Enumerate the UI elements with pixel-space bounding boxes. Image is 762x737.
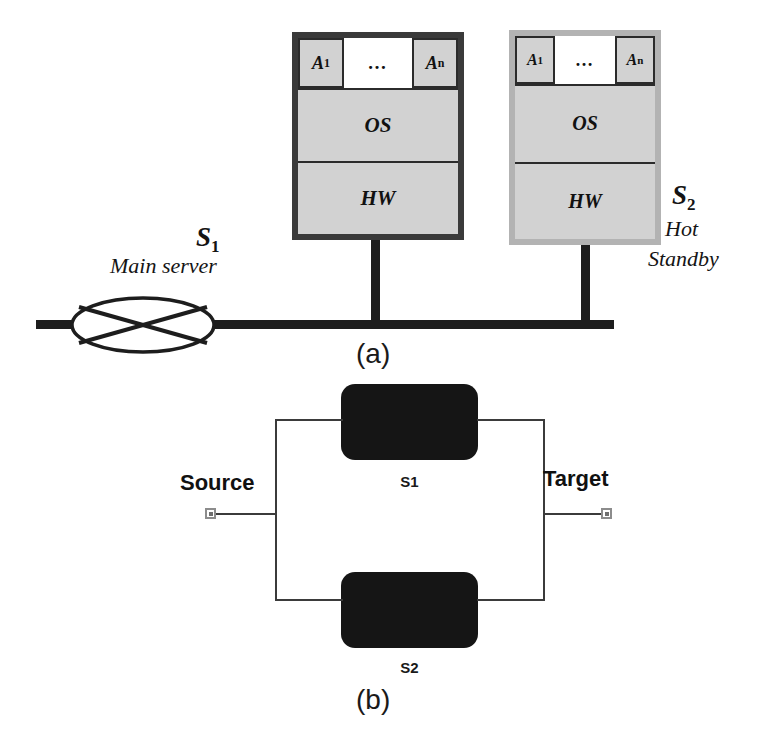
app-cell-an-s2-sub: n — [637, 54, 643, 66]
app-cell-an-s2-label: A — [627, 51, 638, 69]
part-b-caption: (b) — [356, 684, 390, 716]
app-row-s2: A1 … An — [515, 36, 655, 86]
wire-left-to-s2 — [275, 599, 343, 601]
source-label-text: Source — [180, 470, 255, 495]
app-cell-an-sub: n — [438, 56, 445, 71]
app-cell-ellipsis-label: … — [368, 52, 389, 74]
target-port-icon[interactable] — [601, 508, 612, 519]
server-s2-role-line1: Hot — [665, 216, 698, 242]
app-cell-ellipsis-s2-label: … — [575, 50, 595, 71]
crossed-ellipse-icon — [68, 294, 218, 356]
server-s1-os-label: OS — [365, 113, 392, 138]
wire-s1-to-right — [477, 419, 545, 421]
app-cell-a1-sub: 1 — [324, 56, 330, 71]
app-cell-a1: A1 — [298, 38, 344, 88]
target-label: Target — [543, 466, 609, 492]
server-s1-hw-label: HW — [360, 186, 395, 211]
block-s2-label: S2 — [341, 659, 478, 676]
server-s2-os-label: OS — [572, 112, 598, 135]
target-label-text: Target — [543, 466, 609, 491]
server-s1-id-text: S — [196, 222, 211, 252]
server-s1-role-text: Main server — [110, 253, 217, 278]
server-s1-role-label: Main server — [110, 253, 217, 279]
wire-left-to-s1 — [275, 419, 343, 421]
block-s1-label-text: S1 — [400, 473, 418, 490]
app-row-s1: A1 … An — [298, 38, 458, 90]
server-s2-id-sub: 2 — [687, 195, 696, 214]
server-s2-layer-os: OS — [515, 86, 655, 164]
server-s2-role-line2: Standby — [648, 246, 719, 272]
app-cell-a1-s2-sub: 1 — [538, 54, 544, 66]
block-s2 — [341, 572, 478, 648]
server-s1: A1 … An OS HW — [292, 32, 464, 240]
app-cell-ellipsis-s2: … — [555, 36, 615, 84]
block-s2-label-text: S2 — [400, 659, 418, 676]
drop-line-s2 — [581, 245, 590, 327]
server-s2-id-text: S — [672, 180, 687, 210]
server-s2-layer-hw: HW — [515, 164, 655, 240]
part-a-caption-text: (a) — [356, 338, 390, 369]
block-s1 — [341, 384, 478, 460]
app-cell-a1-s2: A1 — [515, 36, 555, 84]
part-a-caption: (a) — [356, 338, 390, 370]
source-label: Source — [180, 470, 255, 496]
app-cell-an-label: A — [426, 53, 438, 74]
app-cell-a1-label: A — [312, 53, 324, 74]
server-s2-id-label: S2 — [672, 180, 696, 215]
server-s1-layer-os: OS — [298, 90, 458, 163]
wire-left-rail — [275, 419, 277, 601]
wire-s2-to-right — [477, 599, 545, 601]
source-port-icon[interactable] — [205, 508, 216, 519]
wire-source-stub — [214, 513, 276, 515]
app-cell-an-s2: An — [615, 36, 655, 84]
figure-canvas: A1 … An OS HW — [0, 0, 762, 737]
server-s2-role-line2-text: Standby — [648, 246, 719, 271]
server-s2: A1 … An OS HW — [509, 30, 661, 245]
server-s2-role-line1-text: Hot — [665, 216, 698, 241]
server-s1-layer-hw: HW — [298, 163, 458, 234]
drop-line-s1 — [371, 240, 380, 327]
server-s2-hw-label: HW — [568, 190, 601, 213]
block-s1-label: S1 — [341, 473, 478, 490]
part-b-caption-text: (b) — [356, 684, 390, 715]
wire-target-stub — [544, 513, 606, 515]
app-cell-an: An — [412, 38, 458, 88]
wire-right-rail — [543, 419, 545, 601]
app-cell-a1-s2-label: A — [527, 51, 538, 69]
app-cell-ellipsis: … — [344, 38, 412, 88]
